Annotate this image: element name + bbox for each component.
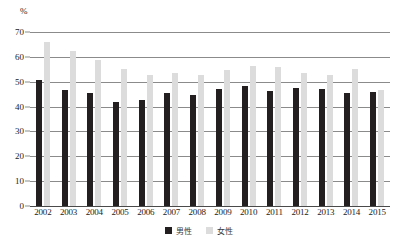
bar-2011-series-1 xyxy=(267,91,273,206)
bar-2015-series-1 xyxy=(370,92,376,206)
y-tick-label-10: 10 xyxy=(15,177,30,186)
bar-chart: % 010203040506070 2002200320042005200620… xyxy=(0,0,398,236)
x-axis-label-2006: 2006 xyxy=(133,207,159,217)
bar-2002-series-1 xyxy=(36,80,42,206)
bar-2011-series-2 xyxy=(275,67,281,206)
bar-2007-series-1 xyxy=(164,93,170,206)
bar-2006-series-1 xyxy=(139,100,145,206)
legend-swatch-2 xyxy=(206,227,213,234)
y-tick-label-40: 40 xyxy=(15,102,30,111)
bar-group-2002 xyxy=(30,32,56,206)
bar-group-2005 xyxy=(107,32,133,206)
bar-2014-series-1 xyxy=(344,93,350,206)
legend-item-2: 女性 xyxy=(206,225,233,236)
bar-2004-series-1 xyxy=(87,93,93,206)
x-axis-label-2010: 2010 xyxy=(236,207,262,217)
bar-group-2012 xyxy=(287,32,313,206)
bar-2005-series-2 xyxy=(121,69,127,206)
legend-label-1: 男性 xyxy=(176,225,192,236)
y-tick-label-30: 30 xyxy=(15,127,30,136)
bar-2012-series-1 xyxy=(293,88,299,206)
bar-2009-series-2 xyxy=(224,70,230,206)
bar-2015-series-2 xyxy=(378,90,384,206)
bar-2014-series-2 xyxy=(352,69,358,206)
bar-group-2010 xyxy=(236,32,262,206)
plot-area: 010203040506070 xyxy=(30,32,390,206)
bar-2010-series-2 xyxy=(250,66,256,206)
bar-group-2014 xyxy=(339,32,365,206)
legend-item-1: 男性 xyxy=(165,225,192,236)
y-tick-label-20: 20 xyxy=(15,152,30,161)
x-axis-label-2003: 2003 xyxy=(56,207,82,217)
bar-group-2003 xyxy=(56,32,82,206)
chart-legend: 男性女性 xyxy=(0,225,398,236)
y-tick-label-70: 70 xyxy=(15,28,30,37)
x-axis-label-2014: 2014 xyxy=(339,207,365,217)
bar-2003-series-2 xyxy=(70,51,76,206)
bar-2006-series-2 xyxy=(147,75,153,206)
bar-2002-series-2 xyxy=(44,42,50,206)
bar-groups xyxy=(30,32,390,206)
x-axis-label-2007: 2007 xyxy=(159,207,185,217)
bar-2010-series-1 xyxy=(242,86,248,206)
bar-2009-series-1 xyxy=(216,89,222,206)
bar-group-2009 xyxy=(210,32,236,206)
bar-2005-series-1 xyxy=(113,102,119,206)
bar-2008-series-1 xyxy=(190,95,196,206)
x-axis-label-2004: 2004 xyxy=(81,207,107,217)
y-tick-label-60: 60 xyxy=(15,52,30,61)
bar-group-2015 xyxy=(364,32,390,206)
bar-2004-series-2 xyxy=(95,60,101,206)
x-axis-label-2015: 2015 xyxy=(364,207,390,217)
y-tick-label-0: 0 xyxy=(20,202,31,211)
bar-2008-series-2 xyxy=(198,75,204,206)
bar-group-2008 xyxy=(184,32,210,206)
bar-group-2007 xyxy=(159,32,185,206)
bar-2012-series-2 xyxy=(301,73,307,206)
legend-swatch-1 xyxy=(165,227,172,234)
x-axis-label-2012: 2012 xyxy=(287,207,313,217)
x-axis-label-2011: 2011 xyxy=(261,207,287,217)
bar-2013-series-1 xyxy=(319,89,325,206)
bar-group-2006 xyxy=(133,32,159,206)
y-tick-label-50: 50 xyxy=(15,77,30,86)
bar-group-2004 xyxy=(81,32,107,206)
x-axis-label-2005: 2005 xyxy=(107,207,133,217)
y-axis-unit-label: % xyxy=(20,6,28,16)
x-axis-label-2002: 2002 xyxy=(30,207,56,217)
bar-2003-series-1 xyxy=(62,90,68,206)
legend-label-2: 女性 xyxy=(217,225,233,236)
bar-2013-series-2 xyxy=(327,75,333,206)
x-axis-label-2009: 2009 xyxy=(210,207,236,217)
bar-group-2011 xyxy=(261,32,287,206)
x-axis-label-2013: 2013 xyxy=(313,207,339,217)
x-axis-labels: 2002200320042005200620072008200920102011… xyxy=(30,207,390,217)
bar-group-2013 xyxy=(313,32,339,206)
x-axis-label-2008: 2008 xyxy=(184,207,210,217)
bar-2007-series-2 xyxy=(172,73,178,206)
